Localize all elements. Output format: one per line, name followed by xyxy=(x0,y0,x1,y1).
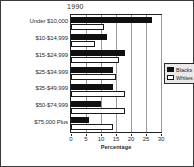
bar-whites xyxy=(71,24,104,30)
bar-whites xyxy=(71,57,119,63)
x-axis-title: Percentage xyxy=(70,144,162,150)
bar-group xyxy=(71,99,161,116)
gridline xyxy=(161,15,162,132)
bar-group xyxy=(71,65,161,82)
bar-group xyxy=(71,82,161,99)
x-tick-label: 20 xyxy=(128,136,135,143)
bar-group xyxy=(71,32,161,49)
legend-item-blacks[interactable]: Blacks xyxy=(167,66,193,73)
legend-swatch-icon xyxy=(167,67,174,72)
x-tick-label: 10 xyxy=(98,136,105,143)
y-axis-label: $15-$24,999 xyxy=(2,52,68,59)
bar-blacks xyxy=(71,34,107,40)
legend-item-whites[interactable]: Whites xyxy=(167,74,193,81)
bar-whites xyxy=(71,124,113,130)
y-axis-label: $25-$34,999 xyxy=(2,69,68,76)
x-tick-label: 25 xyxy=(143,136,150,143)
legend-label: Blacks xyxy=(176,67,192,73)
bar-blacks xyxy=(71,101,101,107)
chart-figure: 1990 Under $10,000$10-$14,999$15-$24,999… xyxy=(0,0,194,167)
x-tick-label: 0 xyxy=(69,136,72,143)
plot-area xyxy=(70,14,162,133)
x-tick-label: 30 xyxy=(158,136,165,143)
bar-group xyxy=(71,15,161,32)
bar-blacks xyxy=(71,50,125,56)
bar-whites xyxy=(71,74,116,80)
bar-blacks xyxy=(71,67,113,73)
y-axis-label: $75,000 Plus xyxy=(2,119,68,126)
x-axis-ticks: 051015202530 xyxy=(70,134,162,143)
bar-whites xyxy=(71,91,125,97)
y-axis-labels: Under $10,000$10-$14,999$15-$24,999$25-$… xyxy=(1,14,68,133)
legend-swatch-icon xyxy=(167,75,174,80)
chart-legend: BlacksWhites xyxy=(164,63,194,84)
bar-whites xyxy=(71,41,95,47)
legend-label: Whites xyxy=(176,75,193,81)
y-axis-label: $35-$49,999 xyxy=(2,85,68,92)
y-axis-label: Under $10,000 xyxy=(2,18,68,25)
chart-title: 1990 xyxy=(67,2,84,11)
y-axis-label: $50-$74,999 xyxy=(2,102,68,109)
x-tick-label: 15 xyxy=(113,136,120,143)
bar-blacks xyxy=(71,117,89,123)
y-axis-label: $10-$14,999 xyxy=(2,35,68,42)
bar-whites xyxy=(71,108,125,114)
x-tick-label: 5 xyxy=(84,136,87,143)
bar-blacks xyxy=(71,17,152,23)
bar-group xyxy=(71,115,161,132)
bar-group xyxy=(71,48,161,65)
bar-blacks xyxy=(71,84,113,90)
